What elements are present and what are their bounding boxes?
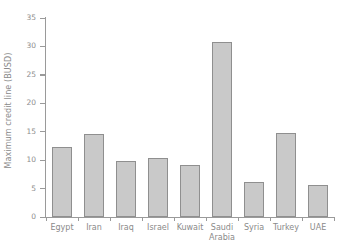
x-axis-tick-mark	[110, 217, 111, 221]
x-axis-label-line1: Syria	[244, 223, 264, 232]
x-axis-label-line2: Arabia	[206, 233, 238, 243]
bar[interactable]	[180, 165, 200, 217]
x-axis-tick-mark	[142, 217, 143, 221]
x-axis-label: Kuwait	[174, 223, 206, 233]
y-axis-tick-label: 25	[20, 71, 36, 79]
y-axis-tick-label: 30	[20, 42, 36, 50]
y-axis-tick-label: 0	[20, 213, 36, 221]
x-axis-label: UAE	[302, 223, 334, 233]
bar[interactable]	[52, 147, 72, 217]
x-axis-label: Syria	[238, 223, 270, 233]
y-axis-title-text: Maximum credit line (BUSD)	[5, 52, 14, 168]
bar[interactable]	[212, 42, 232, 217]
x-axis-label: Israel	[142, 223, 174, 233]
bar[interactable]	[308, 185, 328, 217]
bar[interactable]	[244, 182, 264, 217]
y-axis-tick-label: 5	[20, 185, 36, 193]
x-axis-tick-mark	[334, 217, 335, 221]
x-axis-label-line1: Egypt	[50, 223, 73, 232]
y-axis-tick-label: 15	[20, 128, 36, 136]
y-axis-tick-label: 35	[20, 14, 36, 22]
x-axis-label-line1: UAE	[310, 223, 326, 232]
x-axis-label: SaudiArabia	[206, 223, 238, 242]
bar[interactable]	[148, 158, 168, 217]
x-axis-label-line1: Turkey	[273, 223, 299, 232]
x-axis-label: Iran	[78, 223, 110, 233]
plot-area	[46, 18, 334, 217]
x-axis-tick-mark	[206, 217, 207, 221]
x-axis-label-line1: Kuwait	[177, 223, 204, 232]
x-axis-label: Turkey	[270, 223, 302, 233]
x-axis-label: Egypt	[46, 223, 78, 233]
bar[interactable]	[116, 161, 136, 217]
x-axis-label-line1: Iraq	[118, 223, 134, 232]
x-axis-label-line1: Israel	[147, 223, 169, 232]
x-axis-line	[45, 217, 334, 218]
x-axis-label-line1: Iran	[86, 223, 102, 232]
bar[interactable]	[84, 134, 104, 217]
x-axis-tick-mark	[46, 217, 47, 221]
x-axis-tick-mark	[302, 217, 303, 221]
y-axis-tick-label: 20	[20, 99, 36, 107]
y-axis-tick-label: 10	[20, 156, 36, 164]
x-axis-tick-mark	[78, 217, 79, 221]
x-axis-tick-mark	[270, 217, 271, 221]
x-axis-tick-mark	[238, 217, 239, 221]
bar[interactable]	[276, 133, 296, 217]
x-axis-label-line1: Saudi	[211, 223, 233, 232]
x-axis-label: Iraq	[110, 223, 142, 233]
x-axis-tick-mark	[174, 217, 175, 221]
bar-chart: Maximum credit line (BUSD) 0510152025303…	[0, 0, 338, 252]
y-axis-title: Maximum credit line (BUSD)	[0, 0, 18, 220]
